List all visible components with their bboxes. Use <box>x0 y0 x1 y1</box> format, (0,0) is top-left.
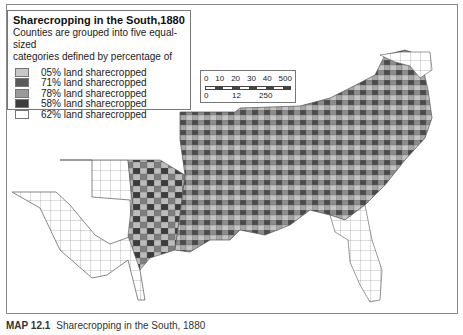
legend-item: 05% land sharecropped <box>13 67 185 78</box>
scale-bar: 010203040500 012250 <box>200 70 296 103</box>
legend-title: Sharecropping in the South,1880 <box>13 14 185 27</box>
texas-west <box>12 160 145 300</box>
map-legend: Sharecropping in the South,1880 Counties… <box>7 10 191 110</box>
legend-item: 71% land sharecropped <box>13 78 185 89</box>
legend-item: 78% land sharecropped <box>13 88 185 99</box>
map-caption: MAP 12.1Sharecropping in the South, 1880 <box>6 320 205 331</box>
legend-item: 58% land sharecropped <box>13 99 185 110</box>
legend-description: categories defined by percentage of <box>13 51 185 63</box>
legend-item: 62% land sharecropped <box>13 109 185 120</box>
florida <box>330 205 382 302</box>
legend-description: Counties are grouped into five equal-siz… <box>13 27 185 51</box>
